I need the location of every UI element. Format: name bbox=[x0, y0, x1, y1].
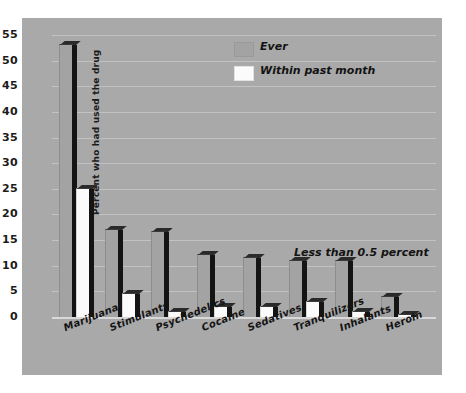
y-tick-label-45: 45 bbox=[0, 79, 18, 92]
legend: Ever Within past month bbox=[234, 40, 404, 88]
annotation-less-than-half-percent: Less than 0.5 percent bbox=[294, 246, 429, 259]
y-tick-label-30: 30 bbox=[0, 156, 18, 169]
legend-label-ever: Ever bbox=[260, 40, 288, 53]
y-tick-label-40: 40 bbox=[0, 105, 18, 118]
y-tick-label-10: 10 bbox=[0, 259, 18, 272]
y-tick-label-5: 5 bbox=[0, 284, 18, 297]
bar-marijuana-ever bbox=[59, 45, 72, 317]
legend-swatch-within-past-month bbox=[234, 66, 254, 81]
bar-group-marijuana bbox=[56, 17, 100, 317]
y-tick-label-20: 20 bbox=[0, 207, 18, 220]
y-tick-label-15: 15 bbox=[0, 233, 18, 246]
bar-side bbox=[89, 189, 94, 317]
bar-group-psychedelics bbox=[148, 17, 192, 317]
bar-group-stimulants bbox=[102, 17, 146, 317]
legend-label-within-past-month: Within past month bbox=[260, 64, 375, 77]
chart-figure: Percent who had used the drug 0510152025… bbox=[0, 0, 466, 393]
y-tick-label-0: 0 bbox=[0, 310, 18, 323]
bar-group-cocaine bbox=[194, 17, 238, 317]
y-tick-label-35: 35 bbox=[0, 131, 18, 144]
y-tick-label-55: 55 bbox=[0, 28, 18, 41]
legend-swatch-ever bbox=[234, 42, 254, 57]
legend-item-ever: Ever bbox=[234, 40, 404, 60]
bar-face bbox=[76, 188, 90, 317]
legend-item-within-past-month: Within past month bbox=[234, 64, 404, 84]
plot-panel: Percent who had used the drug 0510152025… bbox=[22, 18, 442, 375]
bar-face bbox=[59, 44, 73, 317]
y-tick-label-25: 25 bbox=[0, 182, 18, 195]
bar-marijuana-within-past-month bbox=[76, 189, 89, 317]
y-tick-label-50: 50 bbox=[0, 54, 18, 67]
